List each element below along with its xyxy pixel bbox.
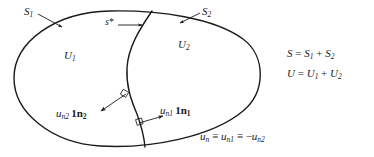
label-region-u2: U2 <box>178 39 190 51</box>
equation-block: S = S1 + S2 U = U1 + U2 <box>287 45 342 84</box>
figure-canvas: S1 S2 s* U1 U2 un2 1n2 un1 1n1 un ≡ un1 … <box>0 0 374 157</box>
leader-line-s1 <box>38 14 62 27</box>
label-region-u1: U1 <box>64 50 76 62</box>
label-normal-vector-right: un1 1n1 <box>160 105 191 117</box>
label-normal-vector-left: un2 1n2 <box>56 108 87 120</box>
equation-volume-sum: U = U1 + U2 <box>287 65 342 85</box>
outer-boundary-curve <box>14 11 260 147</box>
label-outer-surface-s1: S1 <box>24 6 33 18</box>
label-interface-s-star: s* <box>105 17 114 27</box>
label-outer-surface-s2: S2 <box>202 6 211 18</box>
label-normal-identity: un ≡ un1 ≡ −un2 <box>200 131 265 143</box>
equation-surface-sum: S = S1 + S2 <box>287 45 342 65</box>
